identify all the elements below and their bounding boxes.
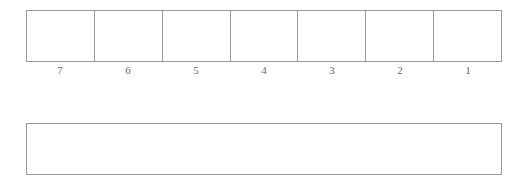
- cell-label-6: 6: [125, 63, 131, 77]
- cell-label-1: 1: [465, 63, 471, 77]
- cell-label-7: 7: [57, 63, 63, 77]
- cell-4[interactable]: [231, 11, 299, 61]
- label-slot-3: 3: [298, 63, 366, 81]
- cell-3[interactable]: [298, 11, 366, 61]
- cell-7[interactable]: [27, 11, 95, 61]
- label-slot-6: 6: [94, 63, 162, 81]
- cell-1[interactable]: [434, 11, 501, 61]
- label-slot-2: 2: [366, 63, 434, 81]
- cell-6[interactable]: [95, 11, 163, 61]
- worksheet-canvas: 7 6 5 4 3 2 1: [0, 0, 529, 187]
- cell-5[interactable]: [163, 11, 231, 61]
- place-value-cell-strip: [26, 10, 502, 62]
- answer-box[interactable]: [26, 123, 502, 175]
- cell-2[interactable]: [366, 11, 434, 61]
- cell-label-3: 3: [329, 63, 335, 77]
- cell-label-5: 5: [193, 63, 199, 77]
- label-slot-1: 1: [434, 63, 502, 81]
- cell-label-4: 4: [261, 63, 267, 77]
- label-slot-7: 7: [26, 63, 94, 81]
- cell-label-2: 2: [397, 63, 403, 77]
- label-slot-4: 4: [230, 63, 298, 81]
- label-slot-5: 5: [162, 63, 230, 81]
- cell-label-row: 7 6 5 4 3 2 1: [26, 63, 502, 81]
